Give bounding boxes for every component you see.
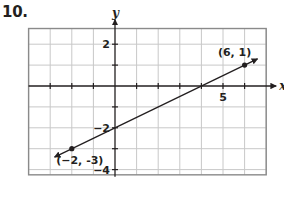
point-label: (−2, -3) (56, 154, 103, 167)
series-line-layer (55, 59, 258, 157)
y-tick-label: 2 (102, 38, 110, 51)
x-axis-label: x (278, 79, 284, 93)
y-axis-label: y (111, 6, 120, 20)
labels: x y 52−2−4(−2, -3)(6, 1) (56, 6, 284, 177)
x-tick-label: 5 (219, 91, 227, 104)
y-tick-label: −2 (93, 122, 110, 135)
data-point (242, 63, 247, 68)
point-label: (6, 1) (218, 46, 251, 59)
data-point (69, 146, 74, 151)
coordinate-plane: x y 52−2−4(−2, -3)(6, 1) (0, 0, 284, 208)
series-line (55, 59, 258, 157)
